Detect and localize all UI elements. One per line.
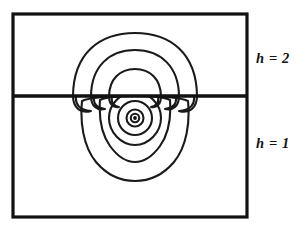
outer-frame: [13, 14, 247, 217]
region-label-lower: h = 1: [256, 136, 290, 151]
source-point-dot: [133, 116, 137, 120]
region-label-upper: h = 2: [256, 51, 290, 66]
diagram-canvas: [0, 0, 305, 233]
wavefront-diagram: h = 2 h = 1: [0, 0, 305, 233]
